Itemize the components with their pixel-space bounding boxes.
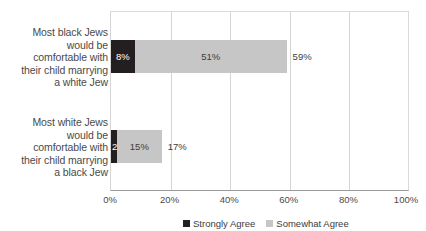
category-label-black-jews: Most black Jews would be comfortable wit… <box>4 26 108 89</box>
legend-swatch-icon <box>266 220 273 227</box>
x-tick-80: 80% <box>339 194 358 205</box>
legend-item-strongly-agree[interactable]: Strongly Agree <box>183 218 255 229</box>
bar-segment-label: 8% <box>116 51 130 62</box>
category-label-white-jews: Most white Jews would be comfortable wit… <box>4 116 108 179</box>
legend-item-somewhat-agree[interactable]: Somewhat Agree <box>266 218 348 229</box>
gridline-60 <box>290 12 291 190</box>
bar-segment-label: 15% <box>130 141 149 152</box>
x-tick-20: 20% <box>160 194 179 205</box>
x-tick-40: 40% <box>220 194 239 205</box>
bar-row-black-jews: 8% 51% 59% <box>111 40 312 73</box>
gridline-20 <box>171 12 172 190</box>
legend-label: Strongly Agree <box>193 218 255 229</box>
legend-label: Somewhat Agree <box>276 218 348 229</box>
gridline-40 <box>230 12 231 190</box>
x-axis: 0% 20% 40% 60% 80% 100% <box>110 194 409 208</box>
gridline-80 <box>349 12 350 190</box>
x-tick-60: 60% <box>279 194 298 205</box>
bar-segment-strongly-agree[interactable]: 8% <box>111 40 135 73</box>
x-tick-0: 0% <box>103 194 117 205</box>
bar-segment-somewhat-agree[interactable]: 51% <box>135 40 287 73</box>
bar-total-label: 59% <box>287 40 312 73</box>
bar-segment-somewhat-agree[interactable]: 15% <box>117 130 162 163</box>
bar-row-white-jews: 2% 15% 17% <box>111 130 187 163</box>
x-tick-100: 100% <box>394 194 418 205</box>
bar-segment-label: 51% <box>201 51 220 62</box>
plot-area: 8% 51% 59% 2% 15% 17% <box>110 11 409 191</box>
legend-swatch-icon <box>183 220 190 227</box>
bar-total-label: 17% <box>162 130 187 163</box>
legend: Strongly Agree Somewhat Agree <box>183 218 349 229</box>
stacked-bar-chart: Most black Jews would be comfortable wit… <box>0 0 426 231</box>
